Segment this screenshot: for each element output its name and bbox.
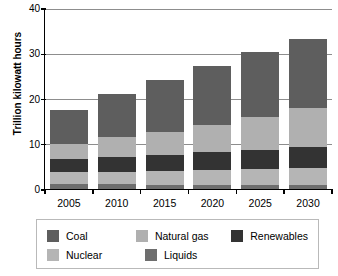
- legend-swatch-icon: [47, 249, 59, 261]
- y-tick-label: 10: [6, 140, 40, 150]
- legend-label: Coal: [66, 230, 88, 242]
- bar-segment-natural-gas: [98, 137, 136, 156]
- x-tick-mark: [331, 189, 332, 194]
- x-tick-label: 2020: [201, 197, 224, 209]
- bar-slot: 2020: [188, 9, 236, 189]
- stacked-bar[interactable]: [98, 94, 136, 189]
- bar-segment-renewables: [50, 159, 88, 173]
- bar-segment-natural-gas: [289, 108, 327, 148]
- bar-segment-coal: [146, 80, 184, 132]
- bar-segment-nuclear: [50, 172, 88, 184]
- bar-segment-nuclear: [193, 170, 231, 185]
- legend-item-coal[interactable]: Coal: [47, 230, 136, 242]
- x-tick-mark: [92, 189, 93, 194]
- y-tick-label: 40: [6, 4, 40, 14]
- x-tick-label: 2025: [249, 197, 272, 209]
- legend-label: Natural gas: [155, 230, 209, 242]
- y-tick-mark: [41, 8, 46, 9]
- x-tick-label: 2030: [296, 197, 319, 209]
- bar-segment-coal: [289, 39, 327, 108]
- y-tick-mark: [41, 189, 46, 190]
- bar-slot: 2030: [284, 9, 332, 189]
- bar-slot: 2010: [93, 9, 141, 189]
- bar-segment-liquids: [241, 185, 279, 189]
- y-tick-label: 30: [6, 49, 40, 59]
- x-tick-label: 2005: [57, 197, 80, 209]
- x-tick-mark: [283, 189, 284, 194]
- bar-segment-coal: [193, 66, 231, 125]
- bar-segment-nuclear: [98, 172, 136, 185]
- bar-slot: 2005: [45, 9, 93, 189]
- stacked-bar[interactable]: [193, 66, 231, 189]
- bar-segment-nuclear: [146, 171, 184, 185]
- x-tick-mark: [236, 189, 237, 194]
- legend-label: Renewables: [250, 230, 308, 242]
- x-tick-label: 2010: [105, 197, 128, 209]
- y-tick-label: 20: [6, 95, 40, 105]
- stacked-bar-chart: Trillion kilowatt hours 2005201020152020…: [0, 0, 338, 276]
- bar-segment-renewables: [241, 150, 279, 169]
- legend-swatch-icon: [231, 230, 243, 242]
- legend-item-liquids[interactable]: Liquids: [145, 249, 250, 261]
- bar-segment-renewables: [146, 155, 184, 171]
- y-tick-mark: [41, 54, 46, 55]
- stacked-bar[interactable]: [146, 80, 184, 189]
- bar-segment-renewables: [289, 147, 327, 167]
- legend-item-renewables[interactable]: Renewables: [231, 230, 308, 242]
- chart-legend: CoalNatural gasRenewablesNuclearLiquids: [36, 219, 319, 269]
- bar-segment-coal: [241, 52, 279, 117]
- y-axis-title: Trillion kilowatt hours: [12, 9, 23, 159]
- bar-segment-liquids: [50, 184, 88, 189]
- bar-segment-renewables: [98, 157, 136, 172]
- y-tick-mark: [41, 144, 46, 145]
- y-tick-label: 0: [6, 185, 40, 195]
- legend-row: CoalNatural gasRenewables: [47, 226, 308, 245]
- plot-area: 200520102015202020252030: [44, 9, 332, 190]
- bar-segment-liquids: [193, 185, 231, 189]
- bar-group: 200520102015202020252030: [45, 9, 332, 189]
- bar-segment-natural-gas: [146, 132, 184, 155]
- bar-slot: 2015: [141, 9, 189, 189]
- legend-swatch-icon: [47, 230, 59, 242]
- bar-segment-liquids: [98, 184, 136, 189]
- stacked-bar[interactable]: [241, 52, 279, 189]
- bar-segment-nuclear: [241, 169, 279, 185]
- y-tick-mark: [41, 99, 46, 100]
- legend-item-natural-gas[interactable]: Natural gas: [136, 230, 231, 242]
- bar-segment-renewables: [193, 152, 231, 170]
- legend-swatch-icon: [136, 230, 148, 242]
- bar-segment-natural-gas: [241, 117, 279, 150]
- bar-segment-natural-gas: [193, 125, 231, 152]
- bar-segment-liquids: [146, 185, 184, 189]
- legend-swatch-icon: [145, 249, 157, 261]
- bar-segment-nuclear: [289, 168, 327, 185]
- legend-row: NuclearLiquids: [47, 245, 308, 264]
- stacked-bar[interactable]: [50, 110, 88, 189]
- stacked-bar[interactable]: [289, 39, 327, 189]
- x-tick-mark: [140, 189, 141, 194]
- bar-segment-natural-gas: [50, 144, 88, 159]
- bar-segment-liquids: [289, 185, 327, 189]
- x-tick-label: 2015: [153, 197, 176, 209]
- legend-item-nuclear[interactable]: Nuclear: [47, 249, 145, 261]
- bar-slot: 2025: [236, 9, 284, 189]
- bar-segment-coal: [50, 110, 88, 144]
- legend-label: Liquids: [164, 249, 197, 261]
- legend-label: Nuclear: [66, 249, 102, 261]
- x-tick-mark: [188, 189, 189, 194]
- bar-segment-coal: [98, 94, 136, 137]
